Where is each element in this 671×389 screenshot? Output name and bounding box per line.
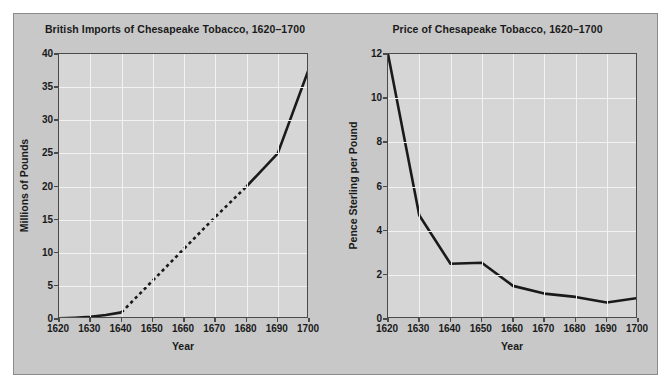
x-tick-label: 1700 — [626, 323, 648, 334]
gridline-vertical — [247, 54, 248, 317]
x-tick-mark — [575, 318, 577, 322]
x-tick-mark — [277, 318, 279, 322]
y-tick-label: 20 — [32, 180, 53, 191]
y-tick-mark — [383, 230, 387, 232]
gridline-vertical — [419, 54, 420, 317]
figure-panel: British Imports of Chesapeake Tobacco, 1… — [13, 13, 658, 375]
gridline-vertical — [607, 54, 608, 317]
gridline-horizontal — [388, 142, 636, 143]
y-tick-mark — [54, 119, 58, 121]
y-tick-mark — [54, 152, 58, 154]
x-tick-mark — [152, 318, 154, 322]
y-tick-mark — [54, 53, 58, 55]
gridline-horizontal — [59, 286, 307, 287]
x-tick-mark — [543, 318, 545, 322]
y-tick-label: 40 — [32, 48, 53, 59]
plot-area-price — [387, 53, 637, 318]
x-tick-mark — [308, 318, 310, 322]
x-tick-mark — [606, 318, 608, 322]
x-tick-label: 1660 — [172, 323, 194, 334]
gridline-vertical — [215, 54, 216, 317]
x-tick-label: 1640 — [109, 323, 131, 334]
gridline-vertical — [184, 54, 185, 317]
plot-area-imports — [58, 53, 308, 318]
y-tick-label: 30 — [32, 114, 53, 125]
y-tick-label: 15 — [32, 213, 53, 224]
gridline-vertical — [513, 54, 514, 317]
x-tick-label: 1620 — [47, 323, 69, 334]
x-tick-label: 1670 — [532, 323, 554, 334]
figure-canvas: British Imports of Chesapeake Tobacco, 1… — [0, 0, 671, 389]
x-tick-label: 1630 — [78, 323, 100, 334]
gridline-horizontal — [388, 187, 636, 188]
y-tick-label: 0 — [32, 313, 53, 324]
y-tick-mark — [383, 97, 387, 99]
x-tick-mark — [121, 318, 123, 322]
chart-price: Price of Chesapeake Tobacco, 1620–1700 0… — [336, 14, 659, 376]
x-tick-label: 1680 — [234, 323, 256, 334]
gridline-vertical — [576, 54, 577, 317]
gridline-vertical — [482, 54, 483, 317]
y-tick-label: 10 — [361, 92, 382, 103]
x-tick-label: 1700 — [297, 323, 319, 334]
gridline-horizontal — [59, 120, 307, 121]
x-tick-label: 1650 — [470, 323, 492, 334]
y-tick-mark — [54, 252, 58, 254]
y-axis-title-price: Pence Sterling per Pound — [347, 53, 359, 318]
y-tick-label: 10 — [32, 246, 53, 257]
gridline-horizontal — [59, 187, 307, 188]
x-axis-title-imports: Year — [58, 340, 308, 352]
y-tick-mark — [383, 186, 387, 188]
y-tick-label: 2 — [361, 268, 382, 279]
gridline-horizontal — [388, 98, 636, 99]
x-tick-mark — [481, 318, 483, 322]
gridline-horizontal — [388, 231, 636, 232]
y-tick-mark — [383, 53, 387, 55]
x-tick-label: 1680 — [563, 323, 585, 334]
chart-imports: British Imports of Chesapeake Tobacco, 1… — [14, 14, 336, 376]
gridline-vertical — [451, 54, 452, 317]
x-tick-mark — [58, 318, 60, 322]
gridline-horizontal — [59, 153, 307, 154]
x-tick-label: 1690 — [595, 323, 617, 334]
y-tick-label: 25 — [32, 147, 53, 158]
y-tick-label: 4 — [361, 224, 382, 235]
gridline-vertical — [278, 54, 279, 317]
x-tick-mark — [387, 318, 389, 322]
x-tick-mark — [89, 318, 91, 322]
y-tick-mark — [383, 274, 387, 276]
y-tick-label: 12 — [361, 48, 382, 59]
gridline-horizontal — [388, 275, 636, 276]
x-tick-mark — [450, 318, 452, 322]
gridline-vertical — [90, 54, 91, 317]
x-tick-mark — [512, 318, 514, 322]
x-tick-mark — [214, 318, 216, 322]
x-tick-label: 1660 — [501, 323, 523, 334]
x-tick-label: 1650 — [141, 323, 163, 334]
y-tick-mark — [383, 141, 387, 143]
chart-title-price: Price of Chesapeake Tobacco, 1620–1700 — [336, 23, 659, 35]
y-tick-mark — [54, 86, 58, 88]
y-tick-label: 6 — [361, 180, 382, 191]
y-tick-mark — [54, 186, 58, 188]
gridline-vertical — [544, 54, 545, 317]
x-tick-mark — [418, 318, 420, 322]
x-tick-mark — [637, 318, 639, 322]
y-tick-label: 35 — [32, 81, 53, 92]
y-axis-title-imports: Millions of Pounds — [18, 53, 30, 318]
y-tick-label: 8 — [361, 136, 382, 147]
y-tick-mark — [54, 285, 58, 287]
x-tick-mark — [183, 318, 185, 322]
y-tick-mark — [54, 219, 58, 221]
x-tick-label: 1670 — [203, 323, 225, 334]
gridline-vertical — [122, 54, 123, 317]
y-tick-label: 5 — [32, 279, 53, 290]
gridline-vertical — [153, 54, 154, 317]
gridline-horizontal — [59, 220, 307, 221]
gridline-horizontal — [59, 253, 307, 254]
x-axis-title-price: Year — [387, 340, 637, 352]
y-tick-label: 0 — [361, 313, 382, 324]
x-tick-mark — [246, 318, 248, 322]
gridline-horizontal — [59, 87, 307, 88]
x-tick-label: 1630 — [407, 323, 429, 334]
